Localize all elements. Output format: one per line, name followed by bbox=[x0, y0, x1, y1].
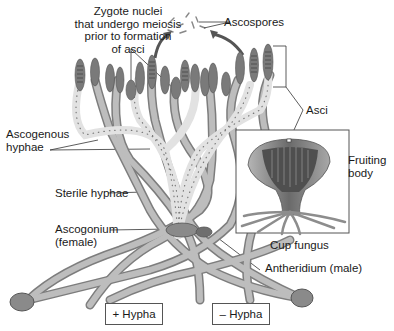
ascogonium bbox=[166, 223, 198, 237]
ascocarp-illustration bbox=[0, 0, 394, 331]
ascogonium-label: Ascogonium (female) bbox=[55, 223, 118, 249]
minus-hypha-tip bbox=[291, 289, 313, 307]
antheridium-label: Antheridium (male) bbox=[265, 262, 362, 275]
fruiting-line-1: Fruiting bbox=[348, 154, 386, 167]
fruiting-line-2: body bbox=[348, 167, 386, 180]
cup-fungus-label: Cup fungus bbox=[270, 239, 329, 252]
ascogonium-line-2: (female) bbox=[55, 236, 118, 249]
ascogenous-line-1: Ascogenous bbox=[6, 128, 69, 141]
zygote-line-2: that undergo meiosis bbox=[68, 18, 188, 31]
asci-label: Asci bbox=[306, 104, 328, 117]
arrow-up-right bbox=[213, 34, 243, 55]
zygote-line-1: Zygote nuclei bbox=[68, 5, 188, 18]
fruiting-body-label: Fruiting body bbox=[348, 154, 386, 180]
zygote-line-3: prior to formation bbox=[68, 30, 188, 43]
ascospores-label: Ascospores bbox=[224, 16, 284, 29]
ascogenous-hyphae-label: Ascogenous hyphae bbox=[6, 128, 69, 154]
plus-hypha-tip bbox=[10, 293, 34, 311]
ascogonium-line-1: Ascogonium bbox=[55, 223, 118, 236]
antheridium bbox=[196, 227, 212, 237]
plus-hypha-box: + Hypha bbox=[105, 303, 163, 325]
ascogenous-line-2: hyphae bbox=[6, 141, 69, 154]
zygote-line-4: of asci bbox=[68, 43, 188, 56]
minus-hypha-box: – Hypha bbox=[212, 303, 270, 325]
zygote-nuclei-label: Zygote nuclei that undergo meiosis prior… bbox=[68, 5, 188, 55]
sterile-hyphae-label: Sterile hyphae bbox=[55, 187, 129, 200]
